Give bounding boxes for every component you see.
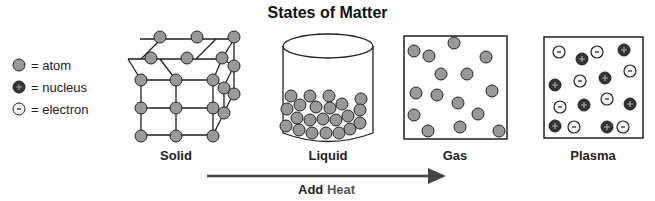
state-label-plasma: Plasma [543, 148, 643, 163]
gas-atoms [408, 37, 505, 137]
state-label-liquid: Liquid [278, 148, 378, 163]
solid-atoms [135, 31, 240, 142]
add-label: Add [298, 182, 323, 197]
state-label-solid: Solid [126, 148, 226, 163]
states-illustration [0, 0, 655, 201]
add-heat-label: Add Heat [298, 182, 355, 197]
state-label-gas: Gas [405, 148, 505, 163]
liquid-atoms [280, 90, 367, 139]
plasma-particles [549, 44, 636, 133]
heat-label: Heat [327, 182, 355, 197]
